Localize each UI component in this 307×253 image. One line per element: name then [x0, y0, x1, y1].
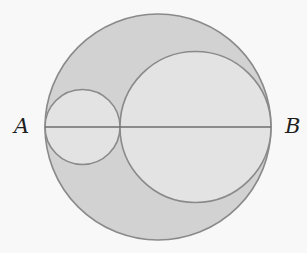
point-label-a: A	[14, 116, 29, 137]
point-label-b: B	[285, 116, 300, 137]
geometry-diagram	[0, 0, 307, 253]
